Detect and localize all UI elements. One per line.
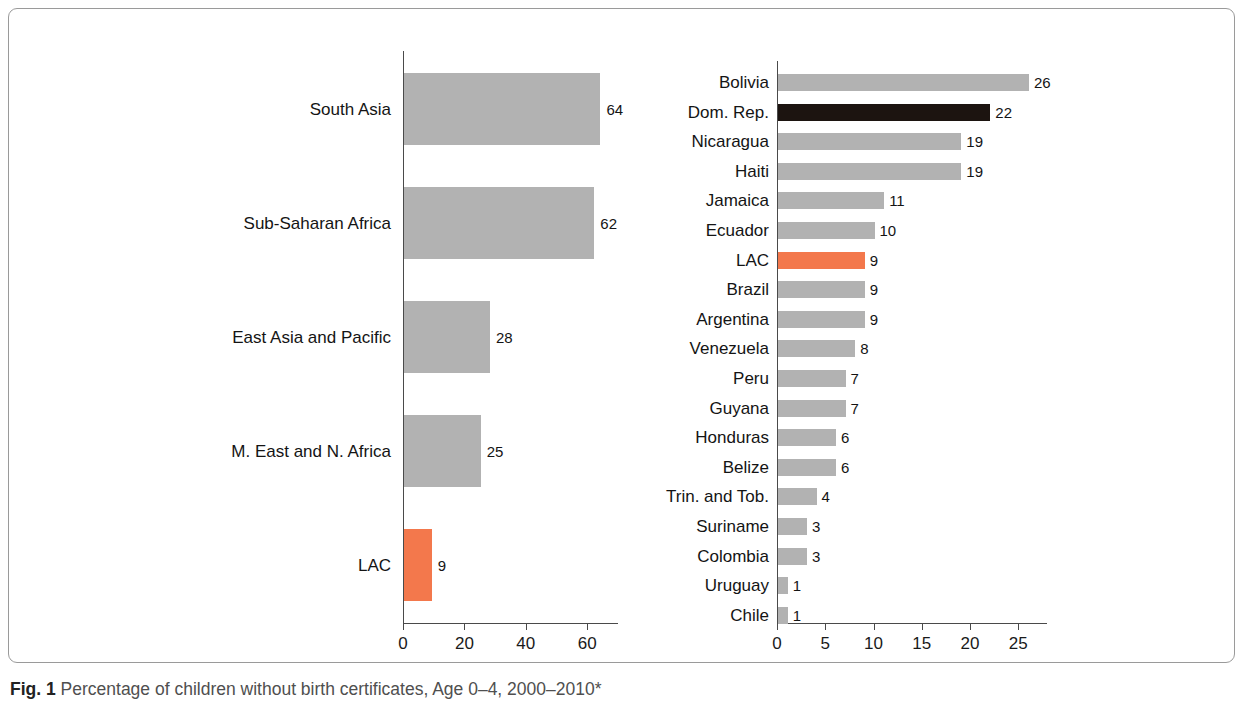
- bar-category-label: East Asia and Pacific: [232, 329, 391, 346]
- bar: [778, 459, 836, 476]
- bar: [778, 400, 846, 417]
- bar-category-label: Suriname: [696, 518, 769, 535]
- bar-category-label: LAC: [736, 252, 769, 269]
- bar-category-label: Dom. Rep.: [688, 104, 769, 121]
- bar-row: Uruguay1: [649, 577, 1236, 594]
- bar: [778, 163, 961, 180]
- bar: [778, 607, 788, 624]
- bar-category-label: Sub-Saharan Africa: [244, 215, 391, 232]
- bar: [778, 548, 807, 565]
- axis-tick-label: 5: [821, 634, 830, 654]
- bar-value-label: 1: [793, 578, 801, 593]
- bar: [404, 529, 432, 601]
- bar-value-label: 7: [851, 401, 859, 416]
- bar-category-label: M. East and N. Africa: [231, 443, 391, 460]
- figure-caption-text: Percentage of children without birth cer…: [61, 679, 602, 699]
- bar-row: Bolivia26: [649, 74, 1236, 91]
- figure-caption: Fig. 1 Percentage of children without bi…: [10, 678, 1210, 701]
- bar: [778, 429, 836, 446]
- left-chart-x-axis-line: [403, 623, 618, 624]
- bar-value-label: 3: [812, 549, 820, 564]
- bar-category-label: Belize: [723, 459, 769, 476]
- figure-frame: South Asia64Sub-Saharan Africa62East Asi…: [8, 8, 1235, 663]
- figure-caption-label: Fig. 1: [10, 679, 56, 699]
- bar-value-label: 64: [606, 102, 623, 117]
- bar: [778, 518, 807, 535]
- bar-category-label: Haiti: [735, 163, 769, 180]
- axis-tick: [526, 623, 527, 630]
- bar-row: Peru7: [649, 370, 1236, 387]
- axis-tick: [874, 623, 875, 630]
- bar-category-label: Guyana: [709, 400, 769, 417]
- bar: [778, 133, 961, 150]
- axis-tick: [464, 623, 465, 630]
- bar: [778, 192, 884, 209]
- bar-category-label: Brazil: [726, 281, 769, 298]
- bar-value-label: 19: [966, 134, 983, 149]
- bar-row: Sub-Saharan Africa62: [9, 187, 649, 259]
- bar: [778, 104, 990, 121]
- bar-row: Brazil9: [649, 281, 1236, 298]
- bar-row: Honduras6: [649, 429, 1236, 446]
- axis-tick-label: 20: [455, 634, 474, 654]
- chart-countries: Bolivia26Dom. Rep.22Nicaragua19Haiti19Ja…: [649, 9, 1236, 664]
- bar-value-label: 25: [487, 444, 504, 459]
- bar: [778, 340, 855, 357]
- bar-value-label: 28: [496, 330, 513, 345]
- bar: [404, 187, 594, 259]
- axis-tick: [587, 623, 588, 630]
- bar-row: Suriname3: [649, 518, 1236, 535]
- chart-regions: South Asia64Sub-Saharan Africa62East Asi…: [9, 9, 649, 664]
- bar-row: Trin. and Tob.4: [649, 488, 1236, 505]
- bar-value-label: 6: [841, 430, 849, 445]
- bar-row: Nicaragua19: [649, 133, 1236, 150]
- bar: [778, 281, 865, 298]
- bar-value-label: 9: [870, 253, 878, 268]
- axis-tick-label: 20: [961, 634, 980, 654]
- bar-category-label: Argentina: [696, 311, 769, 328]
- axis-tick-label: 40: [516, 634, 535, 654]
- bar-value-label: 22: [995, 105, 1012, 120]
- bar: [778, 488, 817, 505]
- bar-category-label: South Asia: [310, 101, 391, 118]
- bar-value-label: 3: [812, 519, 820, 534]
- bar-value-label: 9: [870, 312, 878, 327]
- bar-row: Chile1: [649, 607, 1236, 624]
- bar-row: Jamaica11: [649, 192, 1236, 209]
- axis-tick: [970, 623, 971, 630]
- axis-tick-label: 10: [864, 634, 883, 654]
- bar-row: Colombia3: [649, 548, 1236, 565]
- bar-row: East Asia and Pacific28: [9, 301, 649, 373]
- bar: [778, 311, 865, 328]
- bar-row: M. East and N. Africa25: [9, 415, 649, 487]
- bar-row: Dom. Rep.22: [649, 104, 1236, 121]
- axis-tick: [403, 623, 404, 630]
- bar-row: Argentina9: [649, 311, 1236, 328]
- axis-tick: [777, 623, 778, 630]
- bar-value-label: 11: [889, 193, 905, 208]
- axis-tick: [1018, 623, 1019, 630]
- bar: [778, 222, 875, 239]
- bar-category-label: LAC: [358, 557, 391, 574]
- axis-tick: [825, 623, 826, 630]
- bar-category-label: Jamaica: [706, 192, 769, 209]
- bar-category-label: Honduras: [695, 429, 769, 446]
- bar-value-label: 62: [600, 216, 617, 231]
- bar-value-label: 1: [793, 608, 801, 623]
- bar-category-label: Trin. and Tob.: [666, 488, 769, 505]
- axis-tick: [922, 623, 923, 630]
- bar: [778, 577, 788, 594]
- bar-category-label: Ecuador: [706, 222, 769, 239]
- bar-value-label: 19: [966, 164, 983, 179]
- bar-row: LAC9: [649, 252, 1236, 269]
- bar: [778, 370, 846, 387]
- bar: [404, 415, 481, 487]
- bar-category-label: Chile: [730, 607, 769, 624]
- bar-category-label: Colombia: [697, 548, 769, 565]
- bar-category-label: Venezuela: [690, 340, 769, 357]
- bar-row: Belize6: [649, 459, 1236, 476]
- bar-value-label: 26: [1034, 75, 1051, 90]
- axis-tick-label: 15: [912, 634, 931, 654]
- bar-value-label: 8: [860, 341, 868, 356]
- bar-row: Venezuela8: [649, 340, 1236, 357]
